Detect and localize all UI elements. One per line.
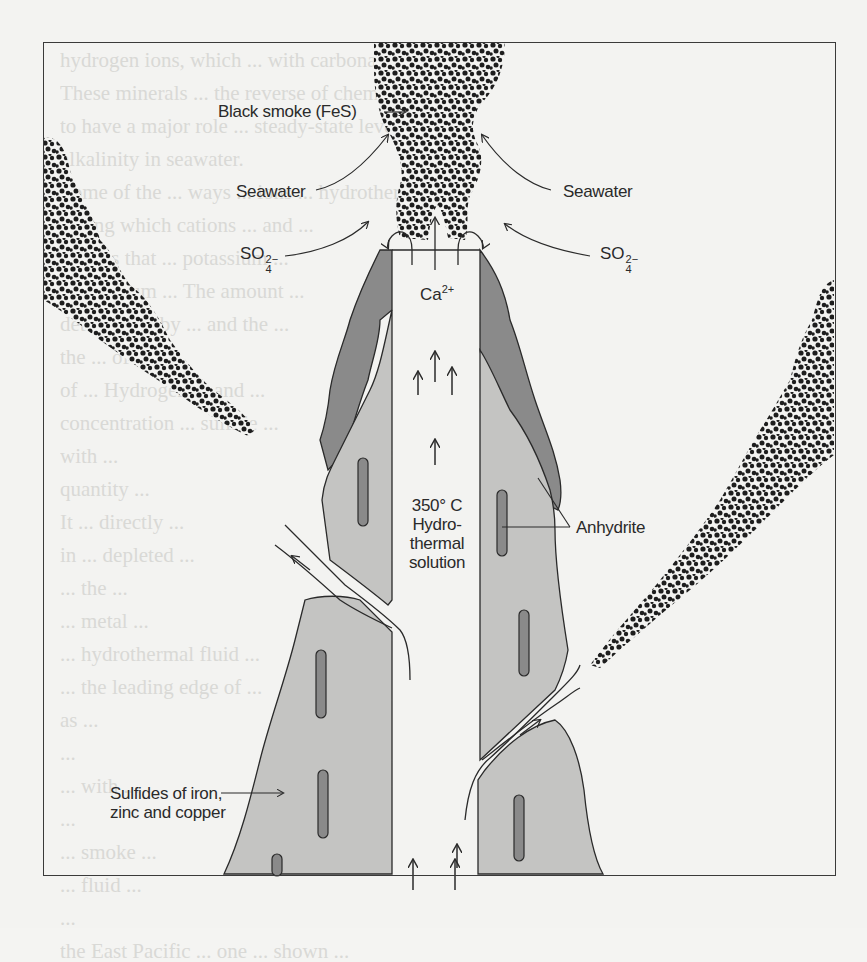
sulfate-subscript: 4 xyxy=(266,264,279,274)
sulfate-subscript: 4 xyxy=(626,264,639,274)
label-calcium: Ca2+ xyxy=(420,283,454,305)
central-smoke-column xyxy=(374,42,505,240)
anhydrite-inclusion xyxy=(272,854,282,876)
label-temperature: 350° C xyxy=(398,496,476,515)
label-sulfides: Sulfides of iron, zinc and copper xyxy=(110,784,226,822)
label-sulfate-right: SO2−4 xyxy=(600,244,638,274)
anhydrite-inclusion xyxy=(497,490,507,556)
anhydrite-inclusion xyxy=(358,458,368,526)
right-smoke-plume xyxy=(590,280,834,668)
sulfate-base: SO xyxy=(240,244,265,264)
label-anhydrite: Anhydrite xyxy=(576,518,645,537)
crack-flow-arrow xyxy=(292,556,310,570)
anhydrite-inclusion xyxy=(318,770,328,838)
anhydrite-inclusion xyxy=(316,650,326,718)
left-chimney-sulfide-lower xyxy=(224,596,392,874)
calcium-base: Ca xyxy=(420,285,442,304)
sulfate-base: SO xyxy=(600,244,625,264)
label-solution-line: solution xyxy=(398,553,476,572)
label-seawater-right: Seawater xyxy=(563,182,632,201)
sulfate-arrow-right xyxy=(505,224,590,256)
sulfate-arrow-left xyxy=(285,222,368,256)
label-solution-line: Hydro- xyxy=(398,515,476,534)
label-hydrothermal-solution: 350° C Hydro- thermal solution xyxy=(398,496,476,572)
anhydrite-inclusion xyxy=(514,795,524,861)
label-black-smoke: Black smoke (FeS) xyxy=(218,102,357,121)
left-smoke-plume xyxy=(44,138,255,436)
label-sulfides-line: zinc and copper xyxy=(110,803,226,822)
bleed-line: the East Pacific ... one ... shown ... xyxy=(60,935,860,962)
label-solution-line: thermal xyxy=(398,534,476,553)
anhydrite-inclusion xyxy=(519,610,529,676)
seawater-arrow-right xyxy=(482,135,551,190)
label-sulfate-left: SO2−4 xyxy=(240,244,278,274)
seawater-arrow-left xyxy=(316,135,388,190)
label-sulfides-line: Sulfides of iron, xyxy=(110,784,226,803)
calcium-charge: 2+ xyxy=(442,283,455,295)
label-seawater-left: Seawater xyxy=(236,182,305,201)
